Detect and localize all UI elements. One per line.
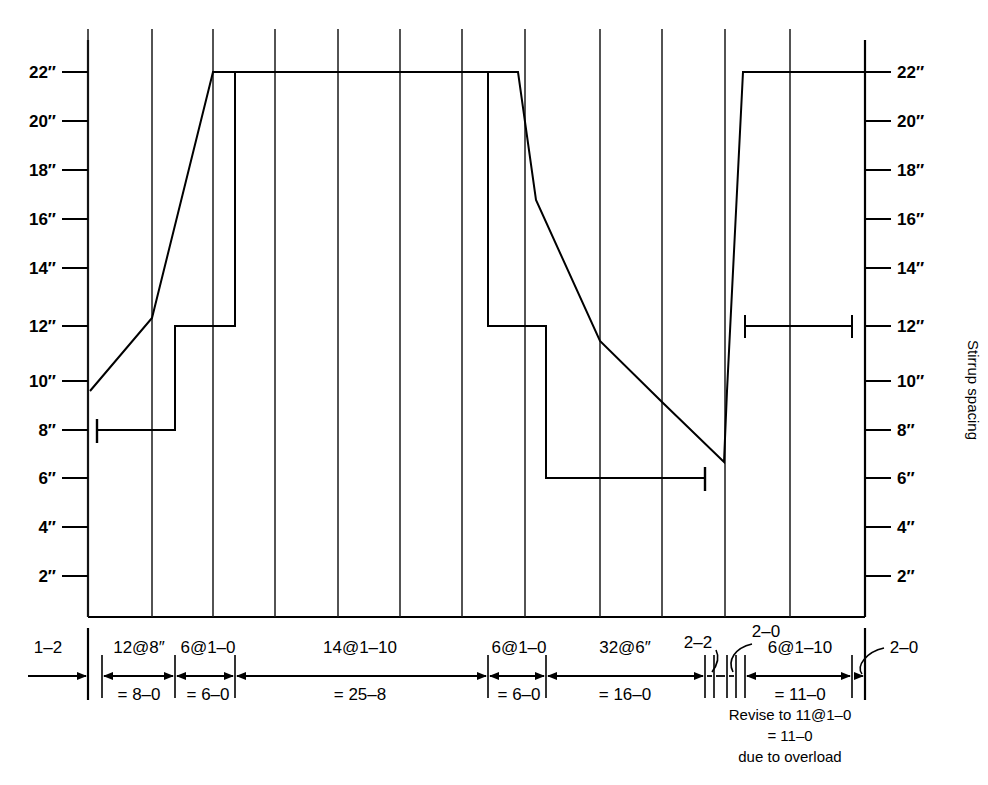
revision-note-line-2: = 11–0 (767, 727, 812, 744)
y-tick-label: 22″ (897, 63, 924, 82)
y-tick-label: 6″ (897, 469, 915, 488)
revision-note-line-3: due to overload (738, 748, 841, 765)
dim-label-14at1-10: 14@1–10 (323, 638, 397, 657)
y-tick-label: 4″ (897, 518, 915, 537)
dim-label-2-0-mid: 2–0 (752, 622, 780, 641)
y-tick-label: 2″ (897, 567, 915, 586)
provided-spacing-right-bar (745, 315, 852, 338)
y-tick-label: 2″ (38, 567, 56, 586)
y-tick-label: 20″ (897, 112, 924, 131)
y-tick-label: 12″ (897, 317, 924, 336)
stirrup-spacing-chart: 22″ 20″ 18″ 16″ 14″ 12″ 10″ 8″ 6″ 4″ 2″ … (0, 0, 988, 785)
y-tick-label: 10″ (29, 372, 56, 391)
required-spacing-curve (90, 72, 865, 462)
step-end-ticks (97, 419, 705, 491)
dimension-labels-top: 1–2 12@8″ 6@1–0 14@1–10 6@1–0 32@6″ 6@1–… (34, 622, 918, 657)
dim-total-6at1-10: = 11–0 (774, 685, 825, 704)
plot-frame (88, 40, 865, 617)
y-tick-label: 14″ (29, 259, 56, 278)
dim-label-12at8: 12@8″ (113, 638, 165, 657)
right-tick-labels: 22″ 20″ 18″ 16″ 14″ 12″ 10″ 8″ 6″ 4″ 2″ (897, 63, 924, 586)
axis-title-stirrup-spacing: Stirrup spacing (965, 340, 982, 440)
y-tick-label: 12″ (29, 317, 56, 336)
dim-total-6at1-0-b: = 6–0 (497, 685, 540, 704)
y-tick-label: 22″ (29, 63, 56, 82)
dim-label-1-2: 1–2 (34, 638, 62, 657)
dim-label-6at1-0-a: 6@1–0 (180, 638, 235, 657)
y-tick-label: 4″ (38, 518, 56, 537)
dim-total-12at8: = 8–0 (117, 685, 160, 704)
left-axis-ticks (62, 72, 88, 576)
y-tick-label: 10″ (897, 372, 924, 391)
dim-total-6at1-0-a: = 6–0 (186, 685, 229, 704)
dim-total-32at6: = 16–0 (599, 685, 651, 704)
y-tick-label: 18″ (29, 161, 56, 180)
figure-canvas: 22″ 20″ 18″ 16″ 14″ 12″ 10″ 8″ 6″ 4″ 2″ … (0, 0, 988, 785)
right-axis-ticks (865, 72, 891, 576)
dimension-labels-bottom: = 8–0 = 6–0 = 25–8 = 6–0 = 16–0 = 11–0 (117, 685, 825, 704)
y-tick-label: 8″ (38, 421, 56, 440)
vertical-gridlines (88, 29, 790, 617)
left-tick-labels: 22″ 20″ 18″ 16″ 14″ 12″ 10″ 8″ 6″ 4″ 2″ (29, 63, 56, 586)
dim-label-32at6: 32@6″ (599, 638, 651, 657)
y-tick-label: 14″ (897, 259, 924, 278)
y-tick-label: 6″ (38, 469, 56, 488)
dim-label-6at1-0-b: 6@1–0 (491, 638, 546, 657)
dim-total-14at1-10: = 25–8 (334, 685, 386, 704)
leader-2-0-right (860, 648, 884, 674)
y-tick-label: 8″ (897, 421, 915, 440)
y-tick-label: 20″ (29, 112, 56, 131)
y-tick-label: 16″ (897, 210, 924, 229)
y-tick-label: 18″ (897, 161, 924, 180)
leader-2-0-mid (731, 644, 752, 672)
dim-label-2-2: 2–2 (684, 633, 712, 652)
dim-label-2-0-right: 2–0 (890, 638, 918, 657)
provided-spacing-step (97, 72, 705, 478)
revision-note: Revise to 11@1–0 = 11–0 due to overload (729, 706, 852, 765)
revision-note-line-1: Revise to 11@1–0 (729, 706, 852, 723)
y-tick-label: 16″ (29, 210, 56, 229)
leader-2-2 (712, 650, 718, 672)
